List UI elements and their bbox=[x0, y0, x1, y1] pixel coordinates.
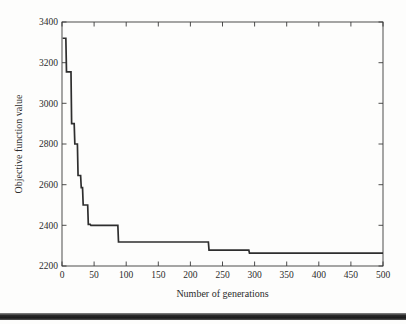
objective-function-convergence-chart: 2200 2400 2600 2800 3000 bbox=[0, 0, 406, 324]
x-tick-label: 400 bbox=[312, 270, 327, 280]
x-tick-450: 450 bbox=[344, 22, 359, 280]
x-tick-label: 350 bbox=[280, 270, 295, 280]
x-tick-label: 150 bbox=[151, 270, 166, 280]
x-tick-50: 50 bbox=[89, 22, 99, 280]
y-tick-label: 3000 bbox=[39, 99, 58, 109]
y-axis-title: Objective function value bbox=[13, 94, 24, 193]
y-tick-label: 2400 bbox=[39, 221, 58, 231]
axes-frame bbox=[62, 22, 383, 266]
plot-frame bbox=[62, 22, 383, 266]
x-tick-200: 200 bbox=[183, 22, 198, 280]
x-tick-300: 300 bbox=[247, 22, 262, 280]
x-tick-label: 450 bbox=[344, 270, 359, 280]
x-tick-label: 0 bbox=[60, 270, 65, 280]
y-tick-2600: 2600 bbox=[39, 180, 383, 190]
x-tick-label: 500 bbox=[376, 270, 391, 280]
x-tick-250: 250 bbox=[215, 22, 230, 280]
x-tick-350: 350 bbox=[280, 22, 295, 280]
y-tick-label: 2200 bbox=[39, 261, 58, 271]
x-tick-label: 50 bbox=[89, 270, 99, 280]
figure-container: 2200 2400 2600 2800 3000 bbox=[0, 0, 406, 324]
y-tick-3200: 3200 bbox=[39, 58, 383, 68]
page-edge-bar bbox=[0, 313, 406, 320]
y-tick-label: 2600 bbox=[39, 180, 58, 190]
x-tick-label: 300 bbox=[247, 270, 262, 280]
x-tick-400: 400 bbox=[312, 22, 327, 280]
x-axis: 0 50 100 150 200 bbox=[60, 22, 391, 280]
y-tick-label: 2800 bbox=[39, 139, 58, 149]
x-tick-100: 100 bbox=[119, 22, 134, 280]
objective-value-step-line bbox=[63, 38, 383, 253]
x-tick-150: 150 bbox=[151, 22, 166, 280]
y-tick-2800: 2800 bbox=[39, 139, 383, 149]
x-tick-label: 100 bbox=[119, 270, 134, 280]
x-tick-label: 200 bbox=[183, 270, 198, 280]
x-tick-label: 250 bbox=[215, 270, 230, 280]
y-axis: 2200 2400 2600 2800 3000 bbox=[39, 17, 383, 271]
y-tick-label: 3400 bbox=[39, 17, 58, 27]
y-tick-label: 3200 bbox=[39, 58, 58, 68]
x-axis-title: Number of generations bbox=[176, 288, 268, 299]
y-tick-3000: 3000 bbox=[39, 99, 383, 109]
